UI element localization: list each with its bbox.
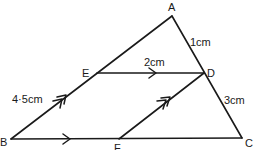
label-d: D <box>207 67 215 79</box>
side-bc <box>11 138 242 139</box>
segment-fd <box>119 73 204 139</box>
side-ab <box>11 16 172 139</box>
label-b: B <box>0 136 7 148</box>
label-a: A <box>168 1 176 13</box>
measure-ed: 2cm <box>144 56 165 68</box>
measure-be: 4·5cm <box>12 93 43 105</box>
measure-ad: 1cm <box>190 36 211 48</box>
label-e: E <box>82 67 89 79</box>
measure-dc: 3cm <box>224 94 245 106</box>
label-f: F <box>114 142 121 150</box>
label-c: C <box>245 137 253 149</box>
triangle-diagram: A B C D E F 1cm 2cm 4·5cm 3cm <box>0 0 258 150</box>
